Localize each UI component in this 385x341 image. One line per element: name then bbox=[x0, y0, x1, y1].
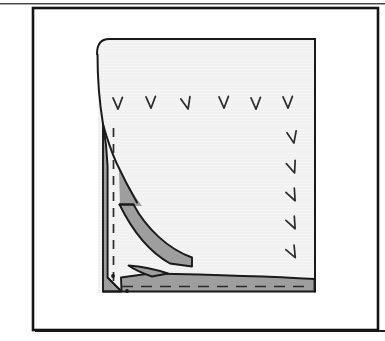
corner-node-lower bbox=[125, 289, 129, 293]
page-top-rule-soft bbox=[0, 4, 385, 5]
corner-node-upper bbox=[111, 274, 115, 278]
page-top-rule bbox=[0, 3, 385, 4]
figure-canvas bbox=[0, 0, 385, 341]
technical-diagram-svg bbox=[0, 0, 385, 341]
diagram-panel-fill bbox=[98, 39, 315, 293]
